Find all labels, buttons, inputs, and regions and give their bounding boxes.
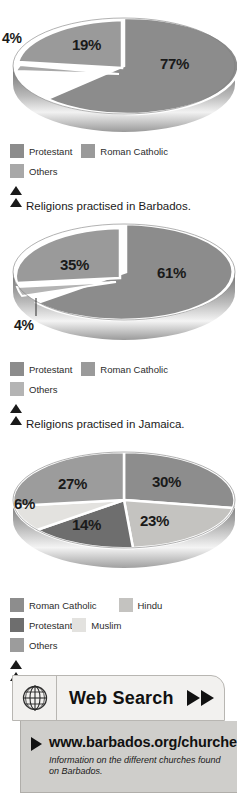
legend-swatch bbox=[10, 144, 24, 158]
legend-swatch bbox=[81, 144, 95, 158]
pie-label-barbados-2: 4% bbox=[2, 30, 22, 46]
legend-item-protestant: Protestant bbox=[10, 618, 72, 632]
legend-swatch bbox=[10, 638, 24, 652]
legend-swatch bbox=[10, 164, 24, 178]
legend-swatch bbox=[10, 362, 24, 376]
legend-swatch bbox=[119, 598, 133, 612]
triangle-icon bbox=[10, 404, 22, 413]
pie-label-trinidad-1: 23% bbox=[140, 512, 169, 529]
legend-item-others: Others bbox=[10, 638, 119, 652]
legend-swatch bbox=[72, 618, 86, 632]
legend-swatch bbox=[10, 618, 24, 632]
pie-label-jamaica-2: 4% bbox=[14, 317, 34, 333]
pie-label-trinidad-0: 30% bbox=[152, 473, 181, 490]
legend-label: Others bbox=[29, 384, 58, 395]
pie-svg-barbados bbox=[0, 0, 237, 140]
chart-block-barbados: 77% 19% 4% Protestant Roman Catholic Oth… bbox=[0, 0, 237, 200]
chart-block-jamaica: 61% 35% 4% Protestant Roman Catholic Oth… bbox=[0, 200, 237, 430]
triangle-icon bbox=[10, 660, 22, 669]
double-arrow-icon[interactable] bbox=[187, 690, 214, 706]
legend-swatch bbox=[81, 362, 95, 376]
pie-chart-jamaica: 61% 35% 4% bbox=[0, 200, 237, 360]
legend-label: Protestant bbox=[29, 364, 72, 375]
legend-swatch bbox=[10, 598, 24, 612]
legend-item-others: Others bbox=[10, 164, 58, 178]
pie-label-barbados-0: 77% bbox=[160, 55, 189, 72]
legend-item-hindu: Hindu bbox=[119, 598, 228, 612]
web-search-result-description: Information on the different churches fo… bbox=[49, 755, 228, 777]
legend-label: Others bbox=[29, 166, 58, 177]
web-search-result-url[interactable]: www.barbados.org/churches.htm bbox=[49, 734, 237, 750]
bullet-arrow-icon bbox=[31, 737, 42, 751]
triangle-icon bbox=[10, 186, 22, 195]
arrow-right-icon bbox=[187, 690, 200, 706]
pie-label-barbados-1: 19% bbox=[72, 36, 101, 53]
pie-label-trinidad-2: 14% bbox=[72, 516, 101, 533]
web-search-box: Web Search www.barbados.org/churches.htm… bbox=[0, 675, 237, 793]
legend-label: Protestant bbox=[29, 146, 72, 157]
page-root: 77% 19% 4% Protestant Roman Catholic Oth… bbox=[0, 0, 237, 808]
legend-label: Others bbox=[29, 640, 58, 651]
pie-label-jamaica-1: 35% bbox=[60, 256, 89, 273]
legend-label: Muslim bbox=[91, 620, 121, 631]
legend-item-protestant: Protestant bbox=[10, 362, 72, 376]
pie-chart-trinidad: 30% 23% 14% 6% 27% bbox=[0, 430, 237, 590]
globe-icon bbox=[13, 676, 57, 720]
pie-label-trinidad-3: 6% bbox=[14, 495, 35, 512]
legend-item-muslim: Muslim bbox=[72, 618, 181, 632]
legend-jamaica: Protestant Roman Catholic Others bbox=[0, 362, 237, 396]
web-search-result[interactable]: www.barbados.org/churches.htm bbox=[31, 734, 228, 751]
triangle-icon bbox=[10, 416, 22, 425]
legend-label: Roman Catholic bbox=[100, 146, 168, 157]
legend-label: Hindu bbox=[138, 600, 163, 611]
web-search-body: www.barbados.org/churches.htm Informatio… bbox=[20, 721, 237, 793]
pie-svg-jamaica bbox=[0, 200, 237, 360]
web-search-header: Web Search bbox=[12, 675, 225, 721]
pie-svg-trinidad bbox=[0, 430, 237, 590]
pie-chart-barbados: 77% 19% 4% bbox=[0, 0, 237, 140]
web-search-title: Web Search bbox=[69, 688, 174, 709]
chart-block-trinidad: 30% 23% 14% 6% 27% Roman Catholic Hindu … bbox=[0, 430, 237, 675]
legend-label: Protestant bbox=[29, 620, 72, 631]
legend-item-protestant: Protestant bbox=[10, 144, 72, 158]
arrow-right-icon bbox=[201, 690, 214, 706]
legend-swatch bbox=[10, 382, 24, 396]
legend-label: Roman Catholic bbox=[100, 364, 168, 375]
legend-item-roman-catholic: Roman Catholic bbox=[81, 362, 168, 376]
pie-label-trinidad-4: 27% bbox=[58, 475, 87, 492]
legend-item-roman-catholic: Roman Catholic bbox=[81, 144, 168, 158]
legend-item-others: Others bbox=[10, 382, 58, 396]
legend-label: Roman Catholic bbox=[29, 600, 97, 611]
legend-trinidad: Roman Catholic Hindu Protestant Muslim O… bbox=[0, 598, 237, 652]
caption-text: Religions practised in Jamaica. bbox=[26, 404, 229, 431]
caption-marker bbox=[10, 404, 22, 428]
legend-item-roman-catholic: Roman Catholic bbox=[10, 598, 119, 612]
pie-label-jamaica-0: 61% bbox=[157, 264, 186, 281]
legend-barbados: Protestant Roman Catholic Others bbox=[0, 144, 237, 178]
